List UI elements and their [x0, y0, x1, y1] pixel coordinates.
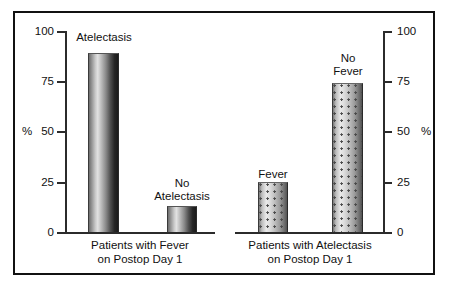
right-tick-label-50: 50 [397, 126, 410, 138]
bar-label-atelectasis: Atelectasis [58, 31, 150, 44]
left-tick-label-25: 25 [34, 177, 54, 189]
right-tick-label-25: 25 [397, 177, 410, 189]
bar-no-fever [332, 83, 363, 232]
right-tick-75 [383, 81, 392, 83]
right-bar-slot-1 [258, 31, 288, 232]
bar-label-no-fever-line1: No [302, 52, 394, 65]
chart-figure: 100 75 50 25 0 % Atelectasis No Atelecta… [0, 0, 450, 289]
left-panel: 100 75 50 25 0 % Atelectasis No Atelecta… [0, 0, 225, 289]
left-bar-slot-1 [88, 31, 119, 232]
right-tick-label-75: 75 [397, 76, 410, 88]
right-axis-percent-label: % [421, 126, 431, 138]
left-tick-25 [57, 182, 66, 184]
right-tick-label-0: 0 [397, 227, 403, 239]
left-tick-label-75: 75 [34, 76, 54, 88]
right-tick-25 [383, 182, 392, 184]
right-x-caption-line2: on Postop Day 1 [225, 253, 395, 267]
left-tick-label-100: 100 [34, 26, 54, 38]
left-tick-label-50: 50 [34, 126, 54, 138]
right-tick-50 [383, 131, 392, 133]
bar-fever [258, 182, 288, 232]
bar-no-atelectasis [167, 206, 197, 232]
right-tick-label-100: 100 [397, 26, 416, 38]
right-panel: 100 75 50 25 0 % Fever No Fever Patients… [225, 0, 450, 289]
bar-label-no-atelectasis-line2: Atelectasis [137, 190, 227, 203]
bar-atelectasis [88, 53, 119, 232]
right-x-caption-line1: Patients with Atelectasis [225, 239, 395, 253]
left-x-caption-line1: Patients with Fever [55, 239, 225, 253]
left-axis-percent-label: % [22, 126, 32, 138]
left-baseline [65, 232, 215, 234]
left-tick-label-0: 0 [34, 227, 54, 239]
left-x-caption-line2: on Postop Day 1 [55, 253, 225, 267]
bar-label-no-fever-line2: Fever [302, 65, 394, 78]
bar-label-no-atelectasis-line1: No [137, 177, 227, 190]
bar-label-fever: Fever [228, 168, 318, 181]
left-tick-50 [57, 131, 66, 133]
right-baseline [235, 232, 385, 234]
right-tick-100 [383, 31, 392, 33]
left-tick-75 [57, 81, 66, 83]
